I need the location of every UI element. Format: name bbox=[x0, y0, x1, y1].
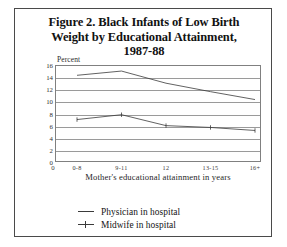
x-axis-tick-label: 13-15 bbox=[203, 164, 219, 171]
legend-item-2: Midwife in hospital bbox=[77, 218, 180, 231]
series-lines-layer bbox=[55, 65, 261, 162]
figure-title: Figure 2. Black Infants of Low Birth Wei… bbox=[25, 15, 263, 59]
x-axis-tick-label: 0-8 bbox=[72, 164, 81, 171]
y-axis-tick-label: 8 bbox=[39, 110, 53, 117]
y-axis-tick-label: 6 bbox=[39, 122, 53, 129]
y-axis-tick-label: 16 bbox=[39, 62, 53, 69]
y-axis-tick-label: 12 bbox=[39, 86, 53, 93]
x-axis-tick-label: 9-11 bbox=[115, 164, 127, 171]
figure-title-line-1: Figure 2. Black Infants of Low Birth bbox=[25, 15, 263, 30]
x-axis-title: Mother's educational attainment in years bbox=[55, 172, 261, 182]
legend-item-1: Physician in hospital bbox=[77, 205, 180, 218]
x-axis-tick-label: 16+ bbox=[250, 164, 261, 171]
chart-legend: Physician in hospitalMidwife in hospital bbox=[77, 205, 180, 231]
legend-line-swatch bbox=[77, 207, 95, 216]
figure-title-line-2: Weight by Educational Attainment, bbox=[25, 30, 263, 45]
legend-line-swatch bbox=[77, 220, 95, 229]
legend-item-label: Midwife in hospital bbox=[101, 220, 176, 230]
y-axis-tick-label: 2 bbox=[39, 146, 53, 153]
series-line-2 bbox=[77, 115, 255, 131]
chart-plot-region: Percent 0246810121416 0 0-89-111213-1516… bbox=[15, 55, 271, 183]
y-axis-tick-label: 10 bbox=[39, 98, 53, 105]
series-line-1 bbox=[77, 71, 255, 100]
legend-item-label: Physician in hospital bbox=[101, 207, 180, 217]
x-axis-tick-label: 12 bbox=[163, 164, 170, 171]
y-axis-title: Percent bbox=[57, 55, 80, 64]
figure-container: Figure 2. Black Infants of Low Birth Wei… bbox=[14, 8, 272, 237]
y-axis-tick-label: 4 bbox=[39, 134, 53, 141]
y-axis-tick-label: 14 bbox=[39, 74, 53, 81]
y-axis-tick-labels: 0246810121416 bbox=[35, 65, 53, 162]
